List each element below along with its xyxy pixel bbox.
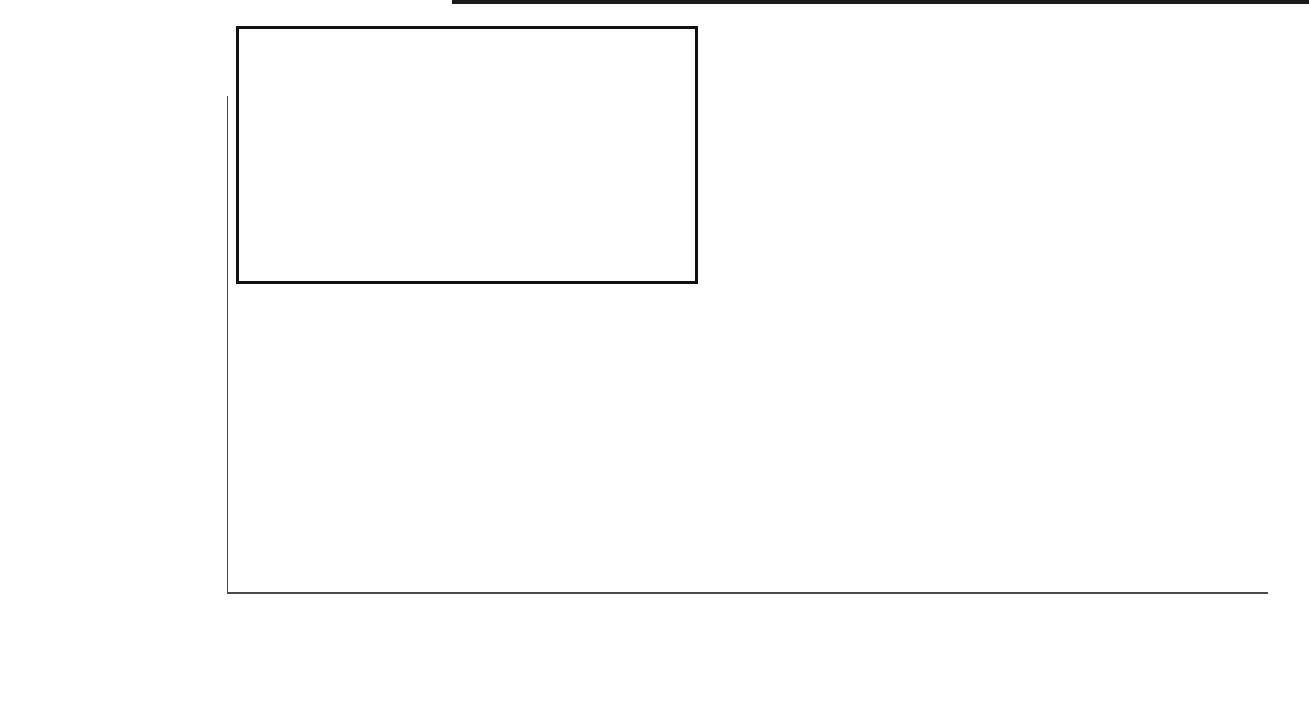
y-axis-tick-labels [172,0,220,708]
chart-legend [236,26,698,284]
top-divider-rule [452,0,1309,4]
figure-root [0,0,1309,708]
x-axis-line [227,592,1268,594]
figure-caption [34,700,774,708]
x-axis-tick-labels [0,604,1309,638]
